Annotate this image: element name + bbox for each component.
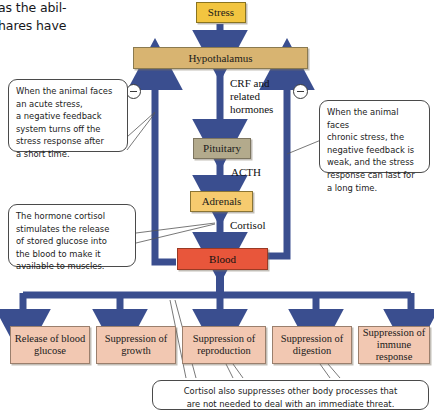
diagram-canvas: as the abil- hares have Stress Hypothala… xyxy=(0,0,434,412)
outcome-label: Suppression of reproduction xyxy=(183,333,265,357)
edge-label-acth: ACTH xyxy=(231,166,261,179)
edge-label-cortisol: Cortisol xyxy=(230,219,265,232)
callout-cortisol-glucose: The hormone cortisol stimulates the rele… xyxy=(8,204,136,267)
negative-feedback-icon-left xyxy=(126,84,141,99)
outcome-release-blood-glucose[interactable]: Release of blood glucose xyxy=(10,326,90,364)
node-stress-label: Stress xyxy=(206,6,236,18)
outcome-suppression-of-growth[interactable]: Suppression of growth xyxy=(96,326,176,364)
book-body-text: as the abil- hares have xyxy=(0,0,66,35)
leader-line-acute xyxy=(127,112,155,150)
node-hypothalamus-label: Hypothalamus xyxy=(186,52,254,64)
arrow-feedback-left xyxy=(155,82,176,262)
node-adrenals[interactable]: Adrenals xyxy=(190,191,253,212)
outcome-label: Suppression of digestion xyxy=(273,333,351,357)
outcome-label: Suppression of growth xyxy=(97,333,175,357)
node-hypothalamus[interactable]: Hypothalamus xyxy=(133,47,308,69)
node-stress[interactable]: Stress xyxy=(196,2,246,23)
callout-suppression-note: Cortisol also suppresses other body proc… xyxy=(152,380,429,410)
leader-line-chronic xyxy=(287,140,321,154)
callout-acute-stress: When the animal faces an acute stress, a… xyxy=(8,79,128,152)
arrow-blood-to-bus xyxy=(23,270,411,295)
node-blood-label: Blood xyxy=(207,253,238,265)
edge-label-crf: CRF and related hormones xyxy=(230,77,273,116)
outcome-label: Release of blood glucose xyxy=(11,333,89,357)
outcome-label: Suppression of immune response xyxy=(359,327,429,362)
node-blood[interactable]: Blood xyxy=(177,248,268,270)
outcome-suppression-of-reproduction[interactable]: Suppression of reproduction xyxy=(182,326,266,364)
node-pituitary-label: Pituitary xyxy=(201,142,243,154)
node-pituitary[interactable]: Pituitary xyxy=(193,138,251,159)
callout-chronic-stress: When the animal faces chronic stress, th… xyxy=(319,100,430,173)
outcome-suppression-of-digestion[interactable]: Suppression of digestion xyxy=(272,326,352,364)
node-adrenals-label: Adrenals xyxy=(200,195,244,207)
leader-line-cortisol xyxy=(136,223,215,243)
negative-feedback-icon-right xyxy=(293,84,308,99)
outcome-suppression-of-immune-response[interactable]: Suppression of immune response xyxy=(358,326,430,364)
